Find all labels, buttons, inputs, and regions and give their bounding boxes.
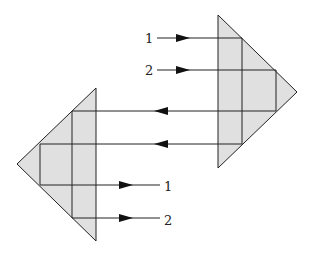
prism-ray-diagram: 1 2 1 2	[0, 0, 312, 254]
arrow-right-icon	[119, 214, 133, 222]
arrow-right-icon	[176, 34, 190, 42]
arrow-left-icon	[154, 140, 168, 148]
arrow-right-icon	[119, 181, 133, 189]
arrow-right-icon	[176, 66, 190, 74]
output-ray-1-label: 1	[164, 179, 172, 194]
input-ray-2-label: 2	[145, 63, 153, 78]
arrow-left-icon	[154, 107, 168, 115]
input-ray-1-label: 1	[145, 31, 153, 46]
output-ray-2-label: 2	[164, 213, 172, 228]
